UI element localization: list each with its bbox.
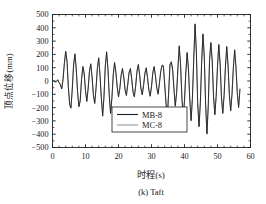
y-tick-label: 200	[36, 50, 48, 59]
figure-taft-displacement-time-history: −500−400−300−200−1000100200300400500 010…	[0, 0, 266, 204]
y-axis-tick-labels: −500−400−300−200−1000100200300400500	[32, 10, 49, 152]
y-axis-title: 顶点位移(mm)	[3, 53, 14, 108]
y-tick-label: −500	[32, 143, 49, 152]
legend-label-mb-8: MB-8	[142, 111, 162, 120]
chart-canvas: −500−400−300−200−1000100200300400500 010…	[0, 0, 266, 204]
x-tick-label: 20	[114, 152, 122, 161]
y-tick-label: −200	[32, 104, 49, 113]
y-tick-label: 500	[36, 10, 48, 19]
x-axis-title: 时程(s)	[137, 169, 165, 180]
legend-label-mc-8: MC-8	[142, 121, 162, 130]
x-tick-label: 0	[50, 152, 54, 161]
x-tick-label: 30	[147, 152, 155, 161]
y-tick-label: 300	[36, 37, 48, 46]
x-tick-label: 10	[81, 152, 89, 161]
x-tick-label: 50	[213, 152, 221, 161]
y-tick-label: 400	[36, 24, 48, 33]
y-tick-label: 100	[36, 64, 48, 73]
y-tick-label: 0	[44, 77, 48, 86]
y-tick-label: −300	[32, 117, 49, 126]
figure-caption: (k) Taft	[138, 187, 164, 197]
y-tick-label: −400	[32, 130, 49, 139]
y-tick-label: −100	[32, 90, 49, 99]
x-axis-tick-labels: 0102030405060	[50, 152, 254, 161]
x-tick-label: 60	[246, 152, 254, 161]
chart-legend: MB-8MC-8	[112, 107, 187, 132]
x-tick-label: 40	[180, 152, 188, 161]
